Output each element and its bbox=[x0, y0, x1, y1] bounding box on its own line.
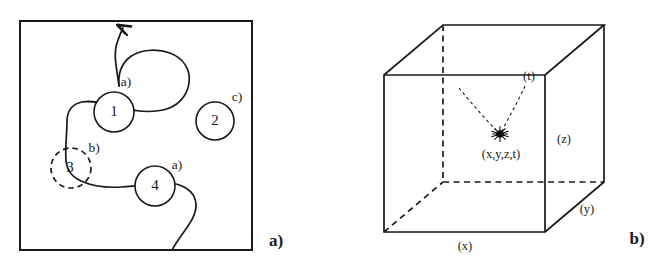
ray-left bbox=[459, 88, 499, 133]
node-3-note: b) bbox=[88, 140, 99, 155]
cube-front-face bbox=[384, 75, 545, 232]
panel-a-caption: a) bbox=[269, 231, 283, 250]
event-vertex-star bbox=[492, 127, 508, 142]
cube-top-face bbox=[384, 25, 604, 75]
panel-b: (x,y,z,t) (x) (y) (z) (t) b) bbox=[384, 25, 645, 253]
figure-root: 1 a) 2 c) 3 b) 4 a) a) bbox=[0, 0, 667, 273]
figure-canvas: 1 a) 2 c) 3 b) 4 a) a) bbox=[0, 0, 667, 273]
axis-label-y: (y) bbox=[580, 202, 595, 216]
node-2[interactable]: 2 bbox=[196, 102, 234, 140]
node-2-note: c) bbox=[232, 89, 243, 104]
axis-label-t: (t) bbox=[523, 69, 535, 83]
ray-right bbox=[501, 86, 525, 133]
panel-a: 1 a) 2 c) 3 b) 4 a) a) bbox=[20, 21, 283, 250]
event-coordinates-label: (x,y,z,t) bbox=[482, 147, 520, 161]
node-4[interactable]: 4 bbox=[135, 166, 175, 206]
node-1-note: a) bbox=[121, 74, 132, 89]
panel-b-caption: b) bbox=[629, 229, 644, 248]
node-1[interactable]: 1 bbox=[94, 92, 134, 132]
cube-hidden-diagonal-edge bbox=[384, 182, 443, 232]
node-2-label: 2 bbox=[211, 112, 219, 128]
node-4-label: 4 bbox=[151, 177, 159, 193]
node-4-note: a) bbox=[172, 157, 183, 172]
node-1-label: 1 bbox=[110, 103, 118, 119]
axis-label-z: (z) bbox=[557, 132, 571, 146]
axis-label-x: (x) bbox=[458, 239, 473, 253]
particle-track bbox=[66, 28, 196, 250]
cube-right-face bbox=[545, 25, 604, 232]
node-3-label: 3 bbox=[66, 159, 74, 175]
